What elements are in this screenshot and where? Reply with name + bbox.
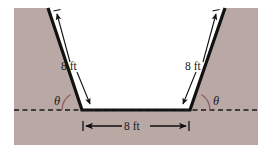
right-slope-length-label: 8 ft (185, 60, 201, 72)
left-angle-label: θ (54, 94, 60, 108)
bottom-width-label: 8 ft (124, 120, 140, 132)
right-angle-label: θ (213, 94, 219, 108)
left-slope-length-label: 8 ft (61, 60, 77, 72)
trench-cross-section-figure: 8 ft 8 ft θ θ 8 ft (0, 0, 273, 153)
diagram-canvas: 8 ft 8 ft θ θ 8 ft (0, 0, 273, 153)
